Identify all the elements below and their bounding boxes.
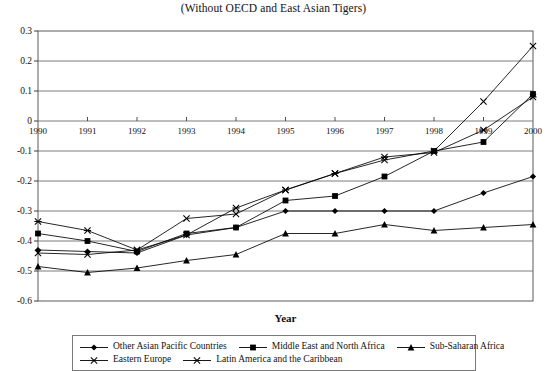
legend-label: Eastern Europe	[113, 353, 171, 366]
legend-sample	[396, 341, 426, 352]
legend-label: Sub-Saharan Africa	[430, 340, 505, 353]
series-line	[38, 46, 533, 255]
legend-row-1: Other Asian Pacific CountriesMiddle East…	[79, 340, 469, 353]
x-tick-label: 1999	[475, 126, 494, 136]
chart-legend: Other Asian Pacific CountriesMiddle East…	[72, 335, 476, 371]
legend-sample	[79, 354, 109, 365]
series-3	[35, 43, 536, 258]
plot-frame	[38, 31, 533, 301]
legend-label: Latin America and the Caribbean	[216, 353, 342, 366]
legend-marker-triangle-icon	[396, 342, 426, 353]
x-axis-label: Year	[275, 312, 297, 324]
y-tick-label: 0.1	[20, 86, 32, 96]
x-tick-label: 2000	[524, 126, 543, 136]
legend-item[interactable]: Latin America and the Caribbean	[182, 353, 342, 366]
x-tick-label: 1996	[326, 126, 345, 136]
x-tick-label: 1991	[79, 126, 97, 136]
x-tick-label: 1998	[425, 126, 444, 136]
legend-row-2: Eastern EuropeLatin America and the Cari…	[79, 353, 469, 366]
legend-item[interactable]: Sub-Saharan Africa	[396, 340, 505, 353]
legend-label: Middle East and North Africa	[272, 340, 385, 353]
legend-sample	[182, 354, 212, 365]
legend-label: Other Asian Pacific Countries	[113, 340, 227, 353]
y-tick-label: -0.1	[17, 146, 32, 156]
series-line	[38, 177, 533, 254]
x-tick-label: 1995	[277, 126, 296, 136]
legend-sample	[79, 341, 109, 352]
legend-marker-asterisk-icon	[182, 355, 212, 366]
legend-marker-x-icon	[79, 355, 109, 366]
x-tick-label: 1992	[128, 126, 146, 136]
x-tick-label: 1994	[227, 126, 246, 136]
legend-marker-square-icon	[238, 342, 268, 353]
y-tick-label: 0.3	[20, 26, 32, 36]
y-tick-label: 0	[27, 116, 32, 126]
legend-sample	[238, 341, 268, 352]
legend-marker-diamond-icon	[79, 342, 109, 353]
series-2	[35, 221, 537, 276]
y-tick-label: -0.4	[17, 236, 32, 246]
x-tick-label: 1990	[29, 126, 48, 136]
y-tick-label: -0.6	[17, 296, 32, 306]
line-chart-svg: 0.30.20.10-0.1-0.2-0.3-0.4-0.5-0.6199019…	[0, 0, 547, 330]
series-0	[35, 173, 536, 256]
x-tick-label: 1993	[178, 126, 197, 136]
legend-item[interactable]: Middle East and North Africa	[238, 340, 385, 353]
legend-item[interactable]: Eastern Europe	[79, 353, 171, 366]
y-tick-label: -0.3	[17, 206, 32, 216]
y-tick-label: -0.2	[17, 176, 32, 186]
y-tick-label: 0.2	[20, 56, 32, 66]
legend-item[interactable]: Other Asian Pacific Countries	[79, 340, 227, 353]
x-tick-label: 1997	[376, 126, 395, 136]
y-tick-label: -0.5	[17, 266, 32, 276]
series-1	[35, 91, 536, 254]
plot-area: 0.30.20.10-0.1-0.2-0.3-0.4-0.5-0.6199019…	[0, 0, 547, 330]
